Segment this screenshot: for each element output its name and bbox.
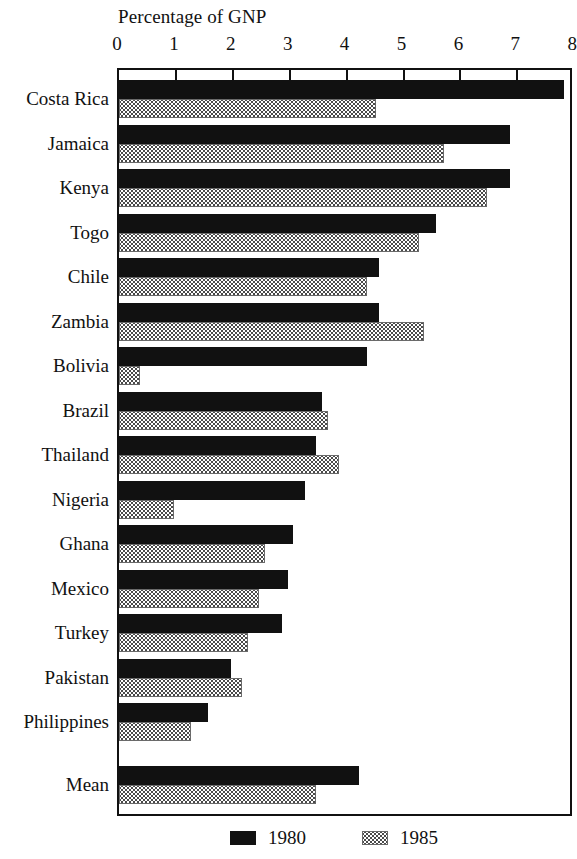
- bar-row: Bolivia: [0, 347, 577, 387]
- bar-1980-pakistan: [119, 659, 231, 678]
- bar-row: Kenya: [0, 169, 577, 209]
- row-label-turkey: Turkey: [0, 623, 109, 642]
- legend-item-1980: 1980: [230, 828, 306, 847]
- row-label-ghana: Ghana: [0, 534, 109, 553]
- bar-1985-bolivia: [119, 366, 140, 385]
- legend-item-1985: 1985: [362, 828, 438, 847]
- bar-1985-togo: [119, 233, 419, 252]
- bar-1980-turkey: [119, 614, 282, 633]
- bar-1980-mexico: [119, 570, 288, 589]
- x-tick-label-6: 6: [443, 33, 473, 55]
- bar-1985-nigeria: [119, 500, 174, 519]
- bar-row: Turkey: [0, 614, 577, 654]
- row-label-mexico: Mexico: [0, 579, 109, 598]
- bar-1985-brazil: [119, 411, 328, 430]
- bar-1980-bolivia: [119, 347, 367, 366]
- bar-1980-philippines: [119, 703, 208, 722]
- legend-swatch-1980-icon: [230, 831, 256, 845]
- x-tick-label-8: 8: [557, 33, 577, 55]
- bar-row: Thailand: [0, 436, 577, 476]
- bar-row: Philippines: [0, 703, 577, 743]
- bar-row: Zambia: [0, 303, 577, 343]
- row-label-thailand: Thailand: [0, 445, 109, 464]
- x-tick-label-7: 7: [500, 33, 530, 55]
- x-tick-label-3: 3: [273, 33, 303, 55]
- bar-1980-costa-rica: [119, 80, 564, 99]
- bar-1985-kenya: [119, 188, 487, 207]
- row-label-brazil: Brazil: [0, 401, 109, 420]
- bar-1985-pakistan: [119, 678, 242, 697]
- bar-1985-jamaica: [119, 144, 444, 163]
- legend-label-1985: 1985: [400, 828, 438, 847]
- row-label-zambia: Zambia: [0, 312, 109, 331]
- row-label-jamaica: Jamaica: [0, 134, 109, 153]
- bar-row: Chile: [0, 258, 577, 298]
- chart-legend: 1980 1985: [0, 828, 577, 859]
- bar-1980-nigeria: [119, 481, 305, 500]
- bar-1985-turkey: [119, 633, 248, 652]
- bar-row: Mexico: [0, 570, 577, 610]
- bar-1980-thailand: [119, 436, 316, 455]
- row-label-bolivia: Bolivia: [0, 356, 109, 375]
- bar-1985-ghana: [119, 544, 265, 563]
- x-tick-label-2: 2: [216, 33, 246, 55]
- bar-row: Togo: [0, 214, 577, 254]
- row-label-philippines: Philippines: [0, 712, 109, 731]
- x-tick-label-0: 0: [102, 33, 132, 55]
- row-label-mean: Mean: [0, 775, 109, 794]
- x-tick-label-5: 5: [387, 33, 417, 55]
- axis-title: Percentage of GNP: [118, 6, 266, 28]
- row-label-pakistan: Pakistan: [0, 668, 109, 687]
- bar-row: Jamaica: [0, 125, 577, 165]
- bar-1985-costa-rica: [119, 99, 376, 118]
- bar-row: Pakistan: [0, 659, 577, 699]
- bar-1980-chile: [119, 258, 379, 277]
- x-tick-label-4: 4: [330, 33, 360, 55]
- bar-row: Ghana: [0, 525, 577, 565]
- bar-row: Mean: [0, 766, 577, 806]
- x-axis-tick-labels: 012345678: [0, 33, 577, 59]
- bar-row: Nigeria: [0, 481, 577, 521]
- legend-label-1980: 1980: [268, 828, 306, 847]
- bar-1985-mexico: [119, 589, 259, 608]
- bar-1980-brazil: [119, 392, 322, 411]
- bar-1980-kenya: [119, 169, 510, 188]
- x-tick-label-1: 1: [159, 33, 189, 55]
- bar-1985-mean: [119, 785, 316, 804]
- bar-1980-mean: [119, 766, 359, 785]
- bar-1985-chile: [119, 277, 367, 296]
- bar-row: Brazil: [0, 392, 577, 432]
- row-label-costa-rica: Costa Rica: [0, 89, 109, 108]
- legend-swatch-1985-icon: [362, 831, 388, 845]
- bar-1985-zambia: [119, 322, 424, 341]
- row-label-togo: Togo: [0, 223, 109, 242]
- bar-1980-zambia: [119, 303, 379, 322]
- row-label-kenya: Kenya: [0, 178, 109, 197]
- bar-1985-philippines: [119, 722, 191, 741]
- bar-rows-container: Costa RicaJamaicaKenyaTogoChileZambiaBol…: [0, 68, 577, 816]
- row-label-chile: Chile: [0, 267, 109, 286]
- row-label-nigeria: Nigeria: [0, 490, 109, 509]
- bar-row: Costa Rica: [0, 80, 577, 120]
- bar-1980-jamaica: [119, 125, 510, 144]
- bar-1980-ghana: [119, 525, 293, 544]
- bar-1980-togo: [119, 214, 436, 233]
- bar-1985-thailand: [119, 455, 339, 474]
